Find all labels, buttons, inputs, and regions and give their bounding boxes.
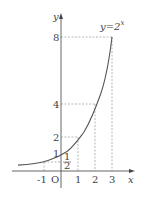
x-tick-3: 3 — [109, 174, 115, 185]
x-axis-arrow-icon — [129, 169, 135, 173]
fraction-denominator: 2 — [64, 160, 70, 171]
function-label: y=2x — [99, 19, 124, 32]
curve-y-2-pow-x — [18, 37, 112, 165]
function-exponent: x — [120, 19, 124, 27]
y-tick-2: 2 — [53, 132, 59, 143]
y-axis-label: y — [52, 11, 59, 22]
y-tick-8: 8 — [53, 32, 59, 43]
exponential-graph: -1 O 1 2 3 x 1 2 4 8 y 1 2 y=2x — [0, 0, 145, 199]
y-tick-1: 1 — [53, 148, 59, 159]
axes — [12, 16, 132, 188]
x-axis-label: x — [128, 174, 134, 185]
y-axis-arrow-icon — [59, 13, 63, 19]
x-tick-2: 2 — [92, 174, 98, 185]
x-tick--1: -1 — [37, 174, 47, 185]
y-tick-4: 4 — [53, 99, 59, 110]
origin-label: O — [51, 174, 59, 185]
x-tick-1: 1 — [75, 174, 81, 185]
function-base: y=2 — [99, 21, 120, 32]
